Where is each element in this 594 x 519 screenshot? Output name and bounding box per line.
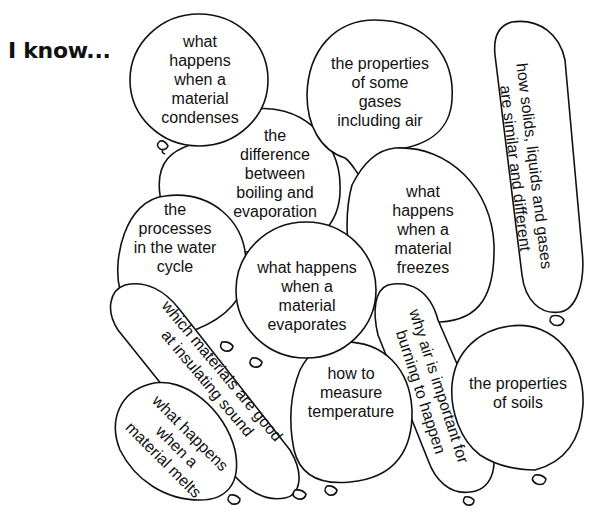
knot-icon <box>463 497 474 505</box>
knot-icon <box>325 486 337 495</box>
knot-icon <box>228 495 240 504</box>
knot-icon <box>293 490 306 499</box>
knot-icon <box>158 141 169 154</box>
balloon-water-cycle: the processes in the water cycle <box>120 200 230 276</box>
i-know-balloon-sheet: I know... <box>0 0 594 519</box>
balloon-freezes: what happens when a material freezes <box>368 182 478 277</box>
balloon-boiling-evaporation: the difference between boiling and evapo… <box>215 126 335 221</box>
balloon-gases-air: the properties of some gases including a… <box>315 54 445 130</box>
knot-icon <box>250 358 262 367</box>
balloon-measure-temperature: how to measure temperature <box>296 364 406 421</box>
balloon-condenses: what happens when a material condenses <box>140 32 260 127</box>
knot-icon <box>221 342 233 351</box>
balloon-evaporates: what happens when a material evaporates <box>240 258 374 334</box>
knot-icon <box>532 475 546 485</box>
balloon-soils: the properties of soils <box>458 374 578 412</box>
knot-icon <box>550 316 564 326</box>
